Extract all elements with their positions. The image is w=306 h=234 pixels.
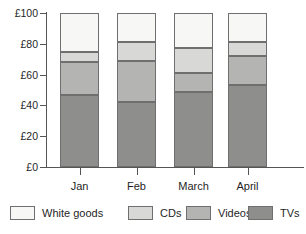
stacked-bar-chart: £0£20£40£60£80£100 JanFebMarchApril Whit… xyxy=(0,0,306,234)
legend-item-videos[interactable]: Videos xyxy=(186,204,251,222)
x-tick-mark xyxy=(194,168,195,175)
y-tick-mark xyxy=(40,13,47,14)
y-tick-mark xyxy=(40,105,47,106)
y-tick-mark xyxy=(40,167,47,168)
bar-segment-cds[interactable] xyxy=(60,52,99,63)
y-tick-label: £100 xyxy=(15,8,38,18)
legend-swatch-icon xyxy=(248,206,273,220)
legend-swatch-icon xyxy=(10,206,35,220)
x-tick-mark xyxy=(80,168,81,175)
x-tick-label-feb: Feb xyxy=(107,180,167,192)
bar-segment-tvs[interactable] xyxy=(60,95,99,167)
y-tick-mark xyxy=(40,136,47,137)
x-tick-label-jan: Jan xyxy=(50,180,110,192)
legend-label: White goods xyxy=(42,207,103,219)
legend-item-tvs[interactable]: TVs xyxy=(248,204,300,222)
x-tick-mark xyxy=(248,168,249,175)
legend-label: CDs xyxy=(160,207,181,219)
bar-segment-white-goods[interactable] xyxy=(60,13,99,52)
bar-segment-videos[interactable] xyxy=(60,62,99,94)
y-tick-label: £80 xyxy=(20,39,38,49)
bar-segment-videos[interactable] xyxy=(117,61,156,103)
legend-item-cds[interactable]: CDs xyxy=(128,204,181,222)
bar-segment-videos[interactable] xyxy=(228,56,267,85)
bar-jan[interactable] xyxy=(60,13,99,167)
bar-april[interactable] xyxy=(228,13,267,167)
legend-item-white-goods[interactable]: White goods xyxy=(10,204,103,222)
chart-legend: White goodsCDsVideosTVs xyxy=(0,204,306,234)
bar-segment-white-goods[interactable] xyxy=(228,13,267,42)
bar-segment-white-goods[interactable] xyxy=(174,13,213,48)
y-tick-label: £60 xyxy=(20,70,38,80)
bar-segment-cds[interactable] xyxy=(117,42,156,60)
legend-swatch-icon xyxy=(128,206,153,220)
bar-segment-videos[interactable] xyxy=(174,73,213,91)
bar-march[interactable] xyxy=(174,13,213,167)
bar-segment-tvs[interactable] xyxy=(228,85,267,167)
x-tick-label-april: April xyxy=(218,180,278,192)
bar-segment-white-goods[interactable] xyxy=(117,13,156,42)
y-tick-mark xyxy=(40,44,47,45)
bar-segment-cds[interactable] xyxy=(174,48,213,73)
bar-feb[interactable] xyxy=(117,13,156,167)
bar-segment-cds[interactable] xyxy=(228,42,267,56)
x-tick-label-march: March xyxy=(164,180,224,192)
y-tick-label: £0 xyxy=(26,162,38,172)
y-tick-mark xyxy=(40,75,47,76)
legend-label: Videos xyxy=(218,207,251,219)
x-axis-line xyxy=(46,167,304,168)
bar-segment-tvs[interactable] xyxy=(174,92,213,167)
y-tick-label: £20 xyxy=(20,131,38,141)
y-tick-label: £40 xyxy=(20,100,38,110)
y-axis-line xyxy=(46,12,47,168)
bar-segment-tvs[interactable] xyxy=(117,102,156,167)
plot-area: £0£20£40£60£80£100 JanFebMarchApril xyxy=(0,0,306,180)
legend-swatch-icon xyxy=(186,206,211,220)
x-tick-mark xyxy=(137,168,138,175)
legend-label: TVs xyxy=(280,207,300,219)
